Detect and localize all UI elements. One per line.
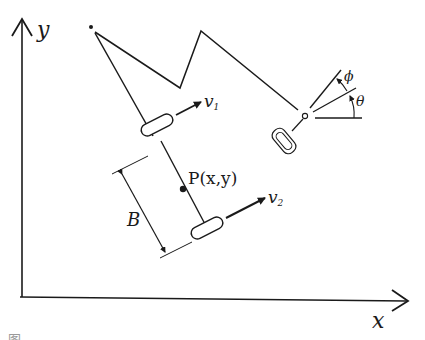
- wheelbase-label: B: [126, 209, 140, 230]
- robot-body-outer-icon: [270, 126, 299, 156]
- wheel1-velocity-arrow: [176, 102, 201, 115]
- kinematics-diagram: y x: [0, 0, 425, 340]
- coordinate-axes: [12, 19, 408, 311]
- steering-line: [310, 70, 341, 108]
- center-point-icon: [180, 186, 186, 192]
- y-axis-label: y: [36, 17, 50, 42]
- wheel2-velocity-label: v2: [268, 187, 284, 208]
- robot-body-inner-icon: [275, 131, 294, 151]
- pivot-point-icon: [302, 113, 307, 118]
- theta-label: θ: [356, 93, 365, 109]
- x-axis-label: x: [372, 308, 385, 333]
- heading-line: [313, 88, 356, 112]
- phi-label: ϕ: [344, 68, 354, 84]
- wheel1-icon: [139, 112, 175, 138]
- theta-arc-arrow: [350, 96, 354, 118]
- steer-link: [292, 119, 303, 131]
- wheel2-velocity-arrow: [226, 198, 265, 218]
- x-axis: [20, 297, 406, 301]
- figure-caption: 图: [8, 333, 425, 340]
- wheel2-extension-line: [160, 242, 192, 258]
- trajectory-path: [89, 25, 298, 136]
- center-point-label: P(x,y): [188, 168, 237, 188]
- wheel1-extension-line: [112, 156, 148, 174]
- robot-kinematics-figure: y x: [0, 0, 425, 340]
- wheel1-velocity-label: v1: [204, 91, 219, 112]
- start-point-icon: [89, 25, 93, 29]
- wheel2-icon: [189, 215, 225, 241]
